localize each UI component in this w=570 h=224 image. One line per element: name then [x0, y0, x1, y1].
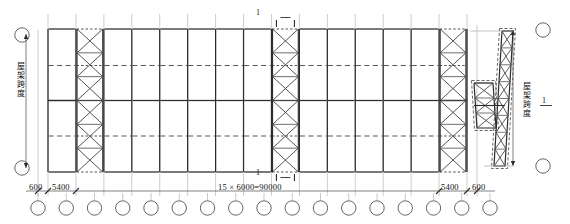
span-label-section: 屋架跨度	[520, 82, 531, 118]
dim-right-end: 600	[472, 182, 485, 192]
dim-left-bay: 5400	[52, 182, 70, 192]
span-label-left: 屋架跨度	[14, 62, 25, 98]
section-marker-side-label: 1	[542, 96, 546, 105]
dim-right-bay: 5400	[441, 182, 459, 192]
section-marker-top-label: 1	[256, 8, 260, 17]
dim-left-end: 600	[29, 182, 42, 192]
section-marker-bottom-label: 1	[256, 168, 260, 177]
dim-center: 15 × 6000=90000	[218, 182, 282, 192]
drawing-canvas: 屋架跨度 屋架跨度 600 5400 15 × 6000=90000 5400 …	[0, 0, 570, 224]
